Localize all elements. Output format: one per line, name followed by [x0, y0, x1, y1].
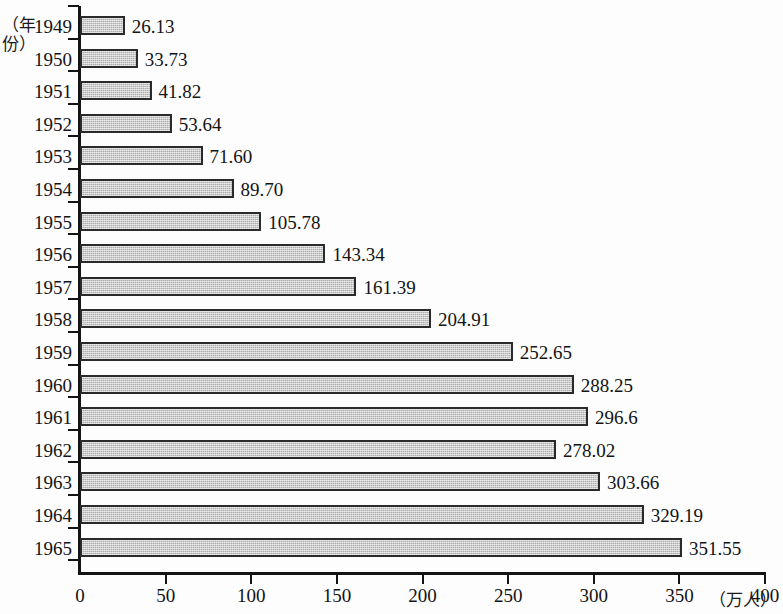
y-axis-category-label: 1952	[34, 115, 72, 135]
y-axis-category-label: 1953	[34, 147, 72, 167]
y-axis-category-label: 1956	[34, 245, 72, 265]
bar	[80, 375, 574, 394]
bar	[80, 407, 588, 426]
bar	[80, 81, 152, 100]
bar-value-label: 33.73	[145, 50, 188, 70]
bar	[80, 179, 234, 198]
x-axis-tick	[422, 575, 424, 584]
bar	[80, 212, 261, 231]
y-axis-tick	[68, 298, 79, 300]
bar	[80, 472, 600, 491]
x-axis-tick	[250, 575, 252, 584]
y-axis-tick	[68, 429, 79, 431]
bar-value-label: 71.60	[210, 147, 253, 167]
y-axis-tick	[68, 527, 79, 529]
y-axis-tick	[68, 70, 79, 72]
y-axis-category-label: 1949	[34, 17, 72, 37]
y-axis-tick	[68, 168, 79, 170]
x-axis-tick-label: 100	[237, 585, 266, 607]
x-axis-tick	[593, 575, 595, 584]
x-axis-tick-label: 200	[408, 585, 437, 607]
y-axis-category-label: 1964	[34, 506, 72, 526]
y-axis-tick	[68, 5, 79, 7]
bar	[80, 309, 431, 328]
y-axis-tick	[68, 201, 79, 203]
y-axis-category-label: 1962	[34, 441, 72, 461]
x-axis-tick-label: 0	[75, 585, 85, 607]
y-axis-category-label: 1963	[34, 473, 72, 493]
y-axis-tick	[68, 103, 79, 105]
bar	[80, 342, 513, 361]
y-axis-category-label: 1958	[34, 310, 72, 330]
x-axis-tick	[678, 575, 680, 584]
y-axis-tick	[68, 396, 79, 398]
bar	[80, 244, 325, 263]
y-axis-tick	[68, 364, 79, 366]
bar	[80, 49, 138, 68]
bar-value-label: 41.82	[159, 82, 202, 102]
x-axis-unit-label: （万人）	[709, 586, 777, 611]
x-axis-tick	[165, 575, 167, 584]
bar-value-label: 329.19	[651, 506, 703, 526]
bar-value-label: 105.78	[268, 213, 320, 233]
bar-chart: （年份） 050100150200250300350400 194926.131…	[0, 0, 783, 614]
x-axis-tick-label: 300	[580, 585, 609, 607]
y-axis-tick	[68, 331, 79, 333]
bar-value-label: 161.39	[363, 278, 415, 298]
y-axis-category-label: 1957	[34, 278, 72, 298]
x-axis-tick-label: 250	[494, 585, 523, 607]
y-axis-tick	[68, 559, 79, 561]
y-axis-tick	[68, 461, 79, 463]
bar-value-label: 53.64	[179, 115, 222, 135]
bar	[80, 538, 682, 557]
bar	[80, 505, 644, 524]
y-axis-tick	[68, 135, 79, 137]
bar-value-label: 204.91	[438, 310, 490, 330]
x-axis-tick-label: 350	[665, 585, 694, 607]
bar	[80, 440, 556, 459]
x-axis-tick-label: 150	[323, 585, 352, 607]
x-axis-tick	[764, 575, 766, 584]
bar-value-label: 351.55	[689, 539, 741, 559]
x-axis-tick	[336, 575, 338, 584]
bar-value-label: 26.13	[132, 17, 175, 37]
y-axis-tick	[68, 494, 79, 496]
y-axis-tick	[68, 266, 79, 268]
bar	[80, 114, 172, 133]
plot-area: 050100150200250300350400 194926.13195033…	[0, 0, 783, 614]
y-axis-category-label: 1961	[34, 408, 72, 428]
y-axis-category-label: 1965	[34, 539, 72, 559]
x-axis-tick-label: 50	[156, 585, 175, 607]
bar-value-label: 252.65	[520, 343, 572, 363]
bar	[80, 277, 356, 296]
bar-value-label: 296.6	[595, 408, 638, 428]
y-axis-category-label: 1959	[34, 343, 72, 363]
y-axis-tick	[68, 233, 79, 235]
bar	[80, 16, 125, 35]
y-axis-category-label: 1955	[34, 213, 72, 233]
bar-value-label: 278.02	[563, 441, 615, 461]
bar-value-label: 288.25	[581, 376, 633, 396]
bar	[80, 146, 203, 165]
y-axis-category-label: 1960	[34, 376, 72, 396]
bar-value-label: 89.70	[241, 180, 284, 200]
x-axis-tick	[507, 575, 509, 584]
y-axis-category-label: 1951	[34, 82, 72, 102]
y-axis-tick	[68, 38, 79, 40]
y-axis-category-label: 1954	[34, 180, 72, 200]
y-axis-category-label: 1950	[34, 50, 72, 70]
bar-value-label: 303.66	[607, 473, 659, 493]
bar-value-label: 143.34	[332, 245, 384, 265]
